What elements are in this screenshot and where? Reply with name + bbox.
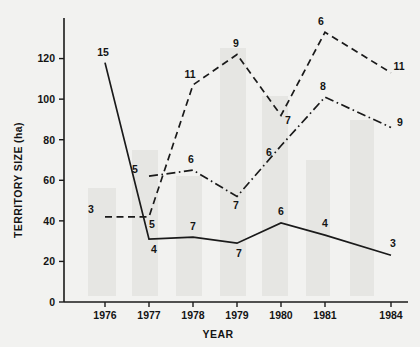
point-label: 7 — [236, 247, 242, 259]
point-label: 7 — [233, 199, 239, 211]
point-label: 6 — [278, 205, 284, 217]
x-tick-label: 1979 — [225, 309, 249, 321]
point-label: 5 — [132, 163, 138, 175]
y-tick-label: 80 — [43, 134, 55, 146]
point-label: 3 — [88, 203, 94, 215]
x-tick-label: 1978 — [181, 309, 205, 321]
chart-canvas: 020406080100120 197619771978197919801981… — [0, 0, 420, 347]
point-label: 15 — [97, 46, 109, 58]
point-label: 6 — [266, 146, 272, 158]
y-axis: 020406080100120 — [37, 18, 64, 308]
y-tick-label: 100 — [37, 93, 55, 105]
y-tick-label: 0 — [49, 296, 55, 308]
point-label: 11 — [393, 60, 404, 72]
x-tick-label: 1984 — [379, 309, 403, 321]
x-axis-title: YEAR — [203, 328, 234, 340]
y-tick-label: 120 — [37, 52, 55, 64]
point-label: 9 — [233, 37, 239, 49]
y-tick-label: 40 — [43, 215, 55, 227]
point-label: 5 — [149, 218, 155, 230]
x-tick-label: 1976 — [93, 309, 117, 321]
x-tick-label: 1977 — [137, 309, 161, 321]
y-tick-label: 60 — [43, 174, 55, 186]
x-tick-label: 1980 — [269, 309, 293, 321]
x-tick-label: 1981 — [313, 309, 337, 321]
point-label: 9 — [397, 116, 403, 128]
y-tick-label: 20 — [43, 255, 55, 267]
point-label: 8 — [320, 80, 326, 92]
territory-size-line-chart: 020406080100120 197619771978197919801981… — [0, 0, 420, 347]
point-label: 11 — [184, 68, 195, 80]
point-label: 4 — [322, 217, 328, 229]
point-label: 6 — [318, 15, 324, 27]
paper-smudges — [88, 48, 374, 296]
point-label: 4 — [151, 243, 157, 255]
point-label: 7 — [285, 114, 291, 126]
y-axis-title: TERRITORY SIZE (ha) — [12, 122, 24, 238]
point-label: 6 — [188, 153, 194, 165]
point-label: 3 — [390, 237, 396, 249]
x-axis: 1976197719781979198019811984 — [64, 302, 408, 321]
point-label: 7 — [190, 220, 196, 232]
